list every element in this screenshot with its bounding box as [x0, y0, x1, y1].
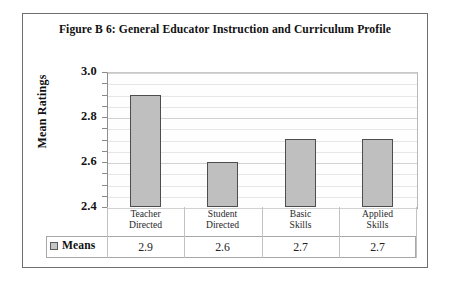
x-category-label: StudentDirected [184, 208, 261, 231]
y-tick-label: 2.6 [55, 154, 97, 169]
bar [362, 139, 393, 207]
y-tick-label: 3.0 [55, 64, 97, 79]
data-table-value: 2.7 [262, 240, 339, 255]
legend-entry-means: Means [50, 239, 108, 252]
bar [207, 162, 238, 207]
x-category-label: AppliedSkills [339, 208, 416, 231]
bars-layer [107, 72, 416, 207]
data-table-value: 2.9 [107, 240, 184, 255]
data-table-value: 2.6 [184, 240, 261, 255]
chart-title: Figure B 6: General Educator Instruction… [52, 23, 398, 37]
table-column-separator [416, 207, 417, 258]
figure-root: Figure B 6: General Educator Instruction… [0, 0, 450, 282]
legend-swatch-icon [50, 242, 58, 250]
bar [130, 95, 161, 207]
y-tick-label: 2.8 [55, 109, 97, 124]
data-table-value: 2.7 [339, 240, 416, 255]
bar [285, 139, 316, 207]
x-category-label: BasicSkills [262, 208, 339, 231]
legend-label: Means [62, 239, 95, 252]
y-axis-title: Mean Ratings [35, 52, 50, 172]
data-table: Means TeacherDirected2.9StudentDirected2… [46, 207, 416, 258]
x-category-label: TeacherDirected [107, 208, 184, 231]
